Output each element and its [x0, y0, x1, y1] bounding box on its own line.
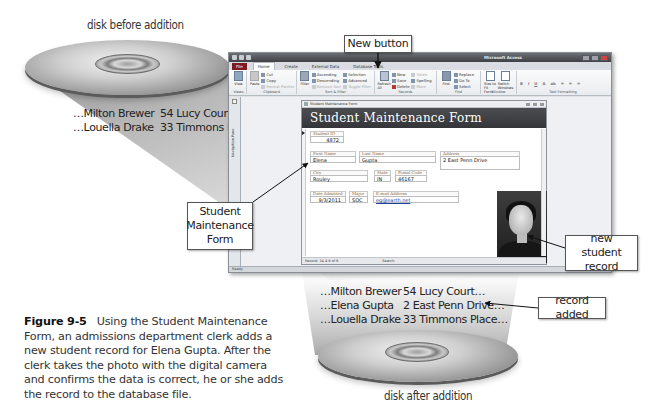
form-header: Student Maintenance Form — [302, 108, 546, 128]
view-icon — [234, 71, 243, 81]
spelling-button[interactable]: Spelling — [411, 78, 431, 83]
toggle-filter-icon — [343, 85, 347, 89]
state-input[interactable]: IN — [374, 175, 391, 182]
address-field: Address 2 East Penn Drive — [440, 151, 520, 170]
ribbon-tabs: File Home Create External Data Database … — [229, 62, 611, 70]
title-bar: Microsoft Access — [229, 53, 611, 62]
email-input[interactable]: eg@earth.net — [373, 196, 459, 203]
group-sort-filter: Filter Ascending Descending Remove Sort … — [297, 71, 375, 94]
record-counter[interactable]: Record: 14 4 9 of 9 — [305, 259, 338, 263]
totals-button[interactable]: Totals — [411, 72, 431, 77]
quick-access-toolbar[interactable] — [232, 55, 251, 60]
save-icon — [392, 79, 396, 83]
date-admitted-input[interactable]: 9/3/2011 — [310, 196, 346, 203]
disk-after-label: disk after addition — [384, 389, 472, 403]
callout-student-form: Student Maintenance Form — [187, 202, 253, 250]
expand-nav-icon[interactable] — [232, 99, 237, 104]
tab-external-data[interactable]: External Data — [308, 63, 343, 70]
status-bar: Ready — [229, 266, 611, 272]
form-tab[interactable]: Student Maintenance Form — [302, 101, 546, 108]
date-admitted-field: Date Admitted 9/3/2011 — [310, 191, 346, 203]
tab-file[interactable]: File — [232, 63, 247, 70]
ascending-button[interactable]: Ascending — [312, 72, 341, 77]
search-box[interactable]: Search — [382, 259, 394, 263]
disk-before-label: disk before addition — [87, 18, 184, 32]
first-name-field: First Name Elena — [310, 151, 356, 163]
workspace: Navigation Pane Student Maintenance Form… — [229, 97, 611, 266]
last-name-field: Last Name Gupta — [359, 151, 436, 163]
window-controls[interactable] — [582, 55, 608, 61]
tab-create[interactable]: Create — [281, 63, 302, 70]
disk-hub — [385, 342, 449, 362]
delete-record-button[interactable]: Delete — [392, 84, 409, 89]
sort-descending-icon — [312, 79, 316, 83]
switch-windows-icon — [501, 71, 510, 81]
cursor-icon — [454, 85, 458, 89]
disk-after-records: …Milton Brewer54 Lucy Court… …Elena Gupt… — [320, 285, 508, 327]
record-line-added: …Elena Gupta2 East Penn Drive… — [320, 299, 508, 313]
student-id-input[interactable]: 4872 — [310, 136, 344, 143]
group-records: Refresh All New Save Delete Totals Spell… — [375, 71, 437, 94]
minimize-icon[interactable] — [582, 55, 590, 61]
new-record-icon — [392, 73, 396, 77]
form-minimize-icon[interactable] — [526, 103, 530, 106]
ribbon: View Views Paste Cut Copy Format Painter… — [229, 70, 611, 96]
major-field: Major SOC — [349, 191, 368, 203]
format-painter-button[interactable]: Format Painter — [261, 84, 294, 89]
document-area: Student Maintenance Form Student Mainten… — [241, 97, 611, 266]
major-input[interactable]: SOC — [349, 196, 368, 203]
app-title: Microsoft Access — [484, 55, 522, 60]
paste-icon — [250, 71, 259, 81]
city-field: City Rouley — [310, 170, 368, 182]
replace-button[interactable]: Replace — [454, 72, 474, 77]
remove-sort-icon — [312, 85, 316, 89]
new-record-button[interactable]: New — [392, 72, 409, 77]
descending-button[interactable]: Descending — [312, 78, 341, 83]
form-scrollbar[interactable] — [541, 129, 546, 256]
figure-number: Figure 9-5 — [24, 315, 87, 328]
tab-home[interactable]: Home — [253, 62, 275, 70]
figure-caption: Figure 9-5 Using the Student Maintenance… — [24, 315, 286, 402]
toggle-filter-button[interactable]: Toggle Filter — [343, 84, 371, 89]
record-selector[interactable] — [302, 129, 306, 256]
maximize-icon[interactable] — [591, 55, 599, 61]
record-navigation[interactable]: Record: 14 4 9 of 9 Search — [302, 257, 546, 264]
callout-new-button: New button — [344, 35, 412, 53]
form-maximize-icon[interactable] — [533, 103, 537, 106]
student-id-field: Student ID 4872 — [310, 131, 344, 143]
arrow-right-icon — [454, 79, 458, 83]
group-clipboard: Paste Cut Copy Format Painter Clipboard — [247, 71, 297, 94]
funnel-icon — [300, 71, 309, 81]
group-text-formatting: BIU Aab ≡≡≡ Text Formatting — [517, 71, 609, 94]
first-name-input[interactable]: Elena — [310, 156, 356, 163]
student-maintenance-form: Student Maintenance Form Student Mainten… — [301, 100, 547, 265]
replace-icon — [454, 73, 458, 77]
last-name-input[interactable]: Gupta — [359, 156, 436, 163]
group-views: View Views — [231, 71, 247, 94]
student-photo[interactable] — [497, 191, 547, 263]
city-input[interactable]: Rouley — [310, 175, 368, 182]
binoculars-icon — [442, 71, 451, 81]
go-to-button[interactable]: Go To — [454, 78, 474, 83]
selection-icon — [343, 73, 347, 77]
address-input[interactable]: 2 East Penn Drive — [440, 156, 520, 170]
record-line: …Milton Brewer54 Lucy Court… — [320, 285, 508, 299]
select-button[interactable]: Select — [454, 84, 474, 89]
postal-code-field: Postal Code 46167 — [395, 170, 427, 182]
remove-sort-button[interactable]: Remove Sort — [312, 84, 341, 89]
save-record-button[interactable]: Save — [392, 78, 409, 83]
advanced-button[interactable]: Advanced — [343, 78, 371, 83]
tab-database-tools[interactable]: Database Tools — [349, 63, 387, 70]
close-icon[interactable] — [600, 55, 608, 61]
more-icon — [411, 85, 415, 89]
postal-code-input[interactable]: 46167 — [395, 175, 427, 182]
copy-button[interactable]: Copy — [261, 78, 294, 83]
cut-button[interactable]: Cut — [261, 72, 294, 77]
scissors-icon — [261, 73, 265, 77]
access-window: Microsoft Access File Home Create Extern… — [228, 52, 612, 273]
disk-hub — [95, 54, 160, 74]
form-close-icon[interactable] — [540, 103, 544, 106]
group-find: Find Replace Go To Select Find — [437, 71, 481, 94]
selection-button[interactable]: Selection — [343, 72, 371, 77]
more-button[interactable]: More — [411, 84, 431, 89]
